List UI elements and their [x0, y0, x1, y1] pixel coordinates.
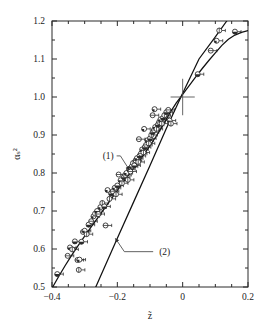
x-tick-label-2: 0 [180, 292, 185, 302]
y-tick-label-3: 0.8 [33, 168, 45, 178]
x-axis-title: z̃ [148, 310, 153, 321]
x-tick-label-3: 0.2 [242, 292, 254, 302]
y-axis-title: αₛ² [11, 148, 22, 160]
chart-canvas: −0.4−0.200.2 0.50.60.70.80.91.01.11.2 (1… [0, 0, 268, 333]
y-tick-label-2: 0.7 [33, 206, 45, 216]
figure-container: −0.4−0.200.2 0.50.60.70.80.91.01.11.2 (1… [0, 0, 268, 333]
curve-2-callout-label: (2) [159, 247, 170, 258]
curve-1-callout-label: (1) [103, 151, 114, 162]
x-tick-label-0: −0.4 [43, 292, 60, 302]
y-tick-label-0: 0.5 [33, 282, 45, 292]
y-tick-label-5: 1.0 [33, 92, 45, 102]
y-tick-label-7: 1.2 [33, 16, 45, 26]
y-tick-label-1: 0.6 [33, 244, 45, 254]
x-tick-label-1: −0.2 [109, 292, 126, 302]
y-tick-label-6: 1.1 [33, 54, 45, 64]
y-tick-label-4: 0.9 [33, 130, 45, 140]
